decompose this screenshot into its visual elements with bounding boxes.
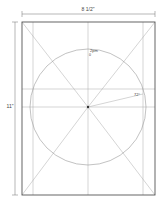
center-point bbox=[87, 106, 89, 108]
height-label: 11" bbox=[7, 103, 14, 109]
width-label: 8 1/2" bbox=[82, 6, 95, 12]
circle-top-sublabel: 0 bbox=[89, 53, 91, 57]
angle-label: 72° bbox=[134, 92, 140, 97]
layout-diagram: 8 1/2" 11" 2pm 0 72° bbox=[0, 0, 162, 201]
guide-lines bbox=[22, 22, 155, 195]
circle-top-label: 2pm bbox=[90, 48, 98, 53]
